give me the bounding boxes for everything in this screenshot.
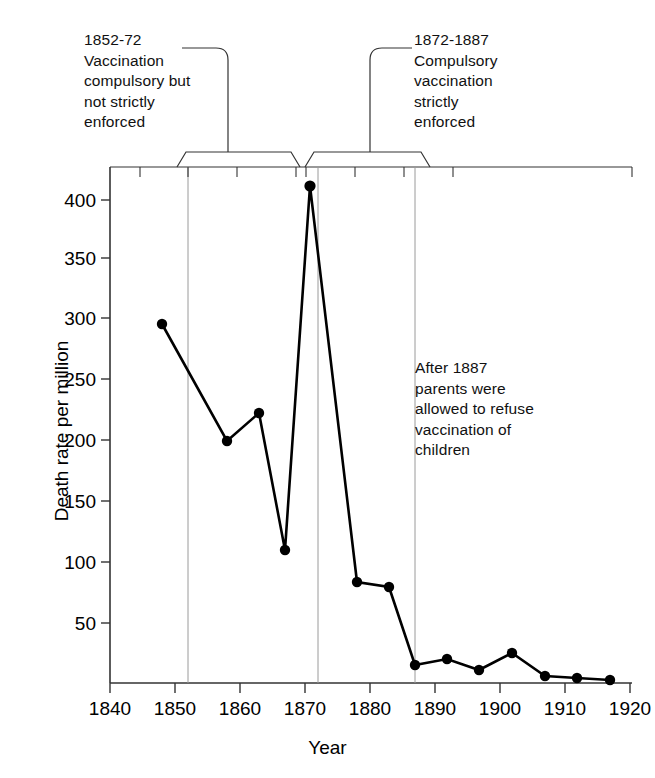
x-tick-label: 1860 xyxy=(219,698,261,719)
chart-figure: 400 350 300 250 200 150 100 50 xyxy=(0,0,655,778)
x-tick-label: 1920 xyxy=(609,698,651,719)
data-point xyxy=(280,545,290,555)
leader-1872-1887 xyxy=(370,48,412,145)
data-point xyxy=(352,577,362,587)
x-tick-label: 1890 xyxy=(414,698,456,719)
x-tick-label: 1850 xyxy=(154,698,196,719)
y-tick-label: 400 xyxy=(64,190,96,211)
y-tick-label: 50 xyxy=(75,613,96,634)
data-point xyxy=(157,319,167,329)
x-axis-title: Year xyxy=(0,737,655,759)
annotation-after-1887: After 1887 parents were allowed to refus… xyxy=(415,358,615,461)
data-point xyxy=(540,671,550,681)
x-tick-label: 1840 xyxy=(89,698,131,719)
y-ticks xyxy=(101,200,110,623)
data-point xyxy=(507,648,517,658)
brace-1872-1887 xyxy=(305,145,430,167)
y-axis-title: Death rate per million xyxy=(51,261,73,601)
data-point xyxy=(605,675,615,685)
data-point xyxy=(222,436,232,446)
x-tick-label: 1910 xyxy=(544,698,586,719)
data-point xyxy=(384,582,394,592)
data-point xyxy=(410,660,420,670)
vertical-rules xyxy=(188,167,415,683)
brace-1852-72 xyxy=(177,145,300,167)
data-point xyxy=(254,408,264,418)
x-tick-label: 1900 xyxy=(479,698,521,719)
x-tick-label: 1880 xyxy=(349,698,391,719)
data-point xyxy=(474,665,484,675)
x-tick-label: 1870 xyxy=(284,698,326,719)
annotation-1872-1887: 1872-1887 Compulsory vaccination strictl… xyxy=(414,30,609,133)
data-point xyxy=(304,180,315,191)
x-ticks-inner xyxy=(140,167,453,177)
x-tick-labels: 1840 1850 1860 1870 1880 1890 1900 1910 … xyxy=(89,698,651,719)
data-point xyxy=(572,673,582,683)
annotation-1852-72: 1852-72 Vaccination compulsory but not s… xyxy=(84,30,274,133)
data-point xyxy=(442,654,452,664)
x-ticks xyxy=(110,683,630,693)
